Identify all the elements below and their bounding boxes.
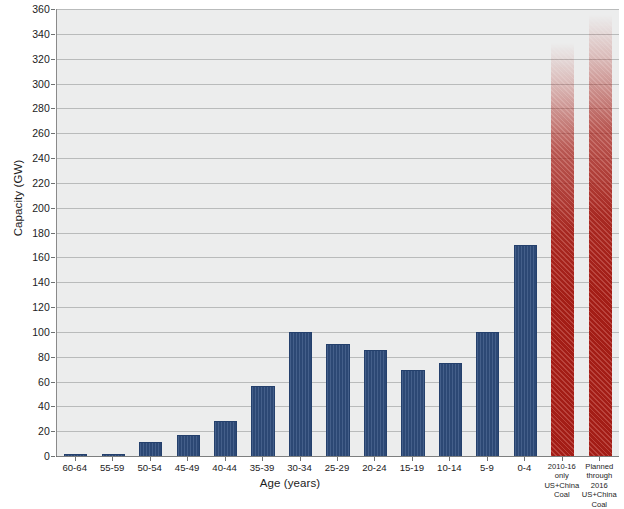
x-tick-mark <box>187 457 188 461</box>
x-tick-label-line: 15-19 <box>393 463 430 474</box>
y-tick-mark <box>51 382 55 383</box>
bar <box>364 350 387 456</box>
x-tick-label-line: US+China <box>543 481 580 490</box>
y-tick-mark <box>51 108 55 109</box>
y-tick-label: 60 <box>6 376 50 388</box>
bar <box>326 344 349 456</box>
x-tick-label: 5-9 <box>468 463 505 474</box>
x-tick-label-line: 30-34 <box>281 463 318 474</box>
x-tick-mark <box>112 457 113 461</box>
y-tick-mark <box>51 282 55 283</box>
y-tick-mark <box>51 406 55 407</box>
x-tick-label-line: Coal <box>543 490 580 499</box>
y-tick-label: 200 <box>6 202 50 214</box>
x-tick-label-line: 2010-16 <box>543 462 580 471</box>
bar <box>289 332 312 456</box>
x-tick-label-line: 45-49 <box>168 463 205 474</box>
x-tick-mark <box>487 457 488 461</box>
y-tick-label: 220 <box>6 177 50 189</box>
bar <box>139 442 162 456</box>
y-tick-label: 160 <box>6 251 50 263</box>
gridline <box>57 34 619 35</box>
y-tick-label: 40 <box>6 400 50 412</box>
y-tick-mark <box>51 357 55 358</box>
gridline <box>57 233 619 234</box>
x-tick-mark <box>562 457 563 461</box>
x-tick-label-line: 55-59 <box>93 463 130 474</box>
bar <box>589 15 612 456</box>
x-tick-label: 0-4 <box>506 463 543 474</box>
y-tick-mark <box>51 183 55 184</box>
x-tick-label: Plannedthrough 2016US+ChinaCoal <box>581 462 618 509</box>
y-tick-label: 120 <box>6 301 50 313</box>
bar-fill <box>589 15 612 456</box>
bar <box>251 386 274 456</box>
gridline <box>57 84 619 85</box>
y-tick-label: 100 <box>6 326 50 338</box>
y-tick-mark <box>51 34 55 35</box>
bar <box>177 435 200 456</box>
x-tick-label: 10-14 <box>431 463 468 474</box>
y-tick-label: 260 <box>6 127 50 139</box>
x-tick-label-line: 35-39 <box>243 463 280 474</box>
x-tick-label-line: through 2016 <box>581 471 618 490</box>
y-tick-label: 320 <box>6 53 50 65</box>
x-tick-label-line: 10-14 <box>431 463 468 474</box>
x-tick-label: 45-49 <box>168 463 205 474</box>
y-tick-mark <box>51 332 55 333</box>
gridline <box>57 158 619 159</box>
y-tick-label: 300 <box>6 78 50 90</box>
bar <box>214 421 237 456</box>
y-tick-mark <box>51 307 55 308</box>
y-tick-label: 80 <box>6 351 50 363</box>
plot-area <box>56 9 619 457</box>
y-axis-title: Capacity (GW) <box>12 128 24 268</box>
x-tick-mark <box>75 457 76 461</box>
y-tick-label: 340 <box>6 28 50 40</box>
x-tick-label-line: 5-9 <box>468 463 505 474</box>
y-tick-mark <box>51 84 55 85</box>
x-tick-label: 2010-16onlyUS+ChinaCoal <box>543 462 580 500</box>
x-tick-mark <box>300 457 301 461</box>
y-tick-mark <box>51 158 55 159</box>
x-tick-label-line: only <box>543 471 580 480</box>
x-tick-label: 60-64 <box>56 463 93 474</box>
x-tick-label-line: 40-44 <box>206 463 243 474</box>
gridline <box>57 59 619 60</box>
y-tick-mark <box>51 208 55 209</box>
x-tick-label: 55-59 <box>93 463 130 474</box>
gridline <box>57 208 619 209</box>
x-tick-mark <box>599 457 600 461</box>
x-tick-label: 15-19 <box>393 463 430 474</box>
y-tick-label: 280 <box>6 102 50 114</box>
x-tick-label-line: Coal <box>581 500 618 509</box>
x-tick-mark <box>150 457 151 461</box>
bar <box>439 363 462 456</box>
y-tick-mark <box>51 9 55 10</box>
y-tick-mark <box>51 133 55 134</box>
y-tick-label: 240 <box>6 152 50 164</box>
y-tick-label: 180 <box>6 227 50 239</box>
bar <box>401 370 424 456</box>
x-tick-label-line: 0-4 <box>506 463 543 474</box>
y-tick-label: 0 <box>6 450 50 462</box>
bar <box>551 43 574 456</box>
x-tick-label: 35-39 <box>243 463 280 474</box>
x-tick-label-line: 50-54 <box>131 463 168 474</box>
x-tick-label: 50-54 <box>131 463 168 474</box>
x-tick-mark <box>412 457 413 461</box>
y-tick-mark <box>51 257 55 258</box>
y-tick-label: 360 <box>6 3 50 15</box>
bar <box>64 454 87 457</box>
x-tick-label: 40-44 <box>206 463 243 474</box>
x-tick-label-line: 25-29 <box>318 463 355 474</box>
x-tick-mark <box>449 457 450 461</box>
x-tick-label-line: 20-24 <box>356 463 393 474</box>
x-tick-mark <box>374 457 375 461</box>
bar-fill <box>551 43 574 456</box>
x-tick-label-line: 60-64 <box>56 463 93 474</box>
x-tick-mark <box>262 457 263 461</box>
bar <box>514 245 537 456</box>
x-tick-label: 20-24 <box>356 463 393 474</box>
